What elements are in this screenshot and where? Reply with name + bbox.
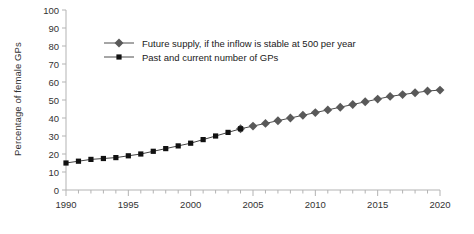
data-point-diamond xyxy=(323,105,332,114)
x-axis-tick-label: 2015 xyxy=(367,199,388,210)
y-axis-tick-label: 90 xyxy=(48,23,59,34)
data-point-square xyxy=(116,54,121,59)
data-point-square xyxy=(138,151,143,156)
data-point-diamond xyxy=(386,92,395,101)
plot-canvas: 0102030405060708090100 19901995200020052… xyxy=(0,0,474,234)
data-point-square xyxy=(188,141,193,146)
x-axis-tick-label: 1990 xyxy=(55,199,76,210)
data-point-diamond xyxy=(273,116,282,125)
data-point-square xyxy=(88,157,93,162)
y-axis-tick-label: 50 xyxy=(48,95,59,106)
legend-entry: Past and current number of GPs xyxy=(104,52,278,63)
y-axis-title: Percentage of female GPs xyxy=(6,4,28,194)
y-axis-tick-label: 100 xyxy=(43,5,59,16)
legend-entry: Future supply, if the inflow is stable a… xyxy=(104,38,356,49)
y-axis-tick-label: 80 xyxy=(48,41,59,52)
data-point-square xyxy=(176,143,181,148)
legend-label: Past and current number of GPs xyxy=(142,52,278,63)
x-axis-tick-label: 2020 xyxy=(429,199,450,210)
data-point-square xyxy=(126,153,131,158)
chart-legend: Future supply, if the inflow is stable a… xyxy=(104,38,356,63)
y-axis-tick-label: 0 xyxy=(54,185,59,196)
data-point-square xyxy=(213,133,218,138)
y-axis-tick-label: 70 xyxy=(48,59,59,70)
data-point-diamond xyxy=(361,97,370,106)
y-axis: 0102030405060708090100 xyxy=(43,5,66,196)
x-axis-tick-label: 2010 xyxy=(305,199,326,210)
data-series-group xyxy=(63,86,444,166)
data-point-square xyxy=(101,156,106,161)
data-point-diamond xyxy=(423,87,432,96)
legend-label: Future supply, if the inflow is stable a… xyxy=(142,38,356,49)
data-point-square xyxy=(113,155,118,160)
data-point-diamond xyxy=(336,103,345,112)
data-point-diamond xyxy=(311,108,320,117)
data-point-diamond xyxy=(436,86,445,95)
y-axis-title-wrapper: Percentage of female GPs xyxy=(6,4,28,194)
data-point-diamond xyxy=(398,90,407,99)
data-point-square xyxy=(225,130,230,135)
data-point-diamond xyxy=(261,119,270,128)
data-point-diamond xyxy=(411,88,420,97)
data-point-square xyxy=(151,149,156,154)
data-point-square xyxy=(163,146,168,151)
chart-figure: Percentage of female GPs 010203040506070… xyxy=(0,0,474,234)
data-point-square xyxy=(201,137,206,142)
data-point-diamond xyxy=(286,114,295,123)
y-axis-tick-label: 30 xyxy=(48,131,59,142)
x-axis: 1990199520002005201020152020 xyxy=(55,190,450,210)
data-series xyxy=(236,86,444,134)
data-point-diamond xyxy=(348,100,357,109)
x-axis-tick-label: 1995 xyxy=(118,199,139,210)
y-axis-tick-label: 10 xyxy=(48,167,59,178)
data-point-square xyxy=(238,126,243,131)
data-point-diamond xyxy=(249,122,258,131)
x-axis-tick-label: 2005 xyxy=(242,199,263,210)
data-point-square xyxy=(63,160,68,165)
y-axis-tick-label: 60 xyxy=(48,77,59,88)
x-axis-tick-label: 2000 xyxy=(180,199,201,210)
y-axis-tick-label: 40 xyxy=(48,113,59,124)
data-series xyxy=(63,126,243,165)
data-point-square xyxy=(76,159,81,164)
data-point-diamond xyxy=(298,111,307,120)
y-axis-tick-label: 20 xyxy=(48,149,59,160)
data-point-diamond xyxy=(373,95,382,104)
data-point-diamond xyxy=(115,39,124,48)
